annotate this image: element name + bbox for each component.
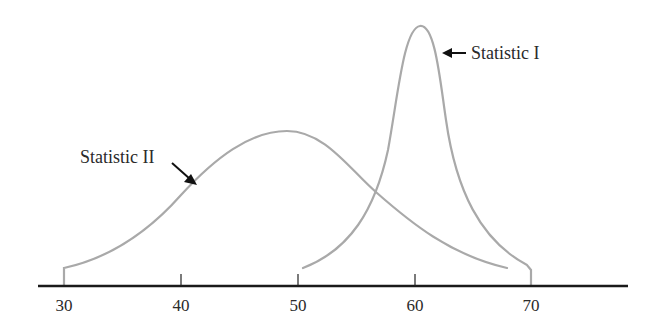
arrowhead-icon [442,48,452,58]
x-axis-tick-labels: 30 40 50 60 70 [56,296,540,315]
statistic-i-annotation: Statistic I [442,43,540,63]
tick-label: 70 [523,296,540,315]
statistic-i-label: Statistic I [471,43,540,63]
arrow-down-right-icon [172,163,190,179]
tick-label: 50 [290,296,307,315]
statistic-ii-label: Statistic II [80,147,155,167]
tick-label: 40 [173,296,190,315]
x-axis-ticks [181,274,415,286]
tick-label: 30 [56,296,73,315]
sampling-distribution-chart: 30 40 50 60 70 Statistic I Statistic II [0,0,656,330]
tick-label: 60 [407,296,424,315]
statistic-ii-annotation: Statistic II [80,147,197,185]
